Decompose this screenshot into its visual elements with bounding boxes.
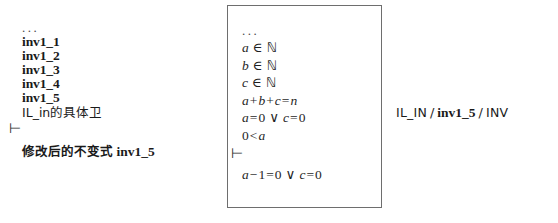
logical-or-icon: ∨ (265, 110, 283, 125)
equals-operator: = (289, 110, 299, 125)
box-hypothesis-a-in-nat: a∈ℕ (242, 39, 382, 57)
membership-icon: ∈ (249, 40, 267, 55)
proof-obligation-box: ... a∈ℕ b∈ℕ c∈ℕ a+b+c=n a=0∨c=0 0<a ⊢ a−… (227, 5, 382, 208)
var-a: a (242, 110, 249, 125)
left-goal-line: 修改后的不变式 inv1_5 (22, 143, 212, 161)
left-goal-prefix: 修改后的不变式 (22, 144, 113, 159)
left-annotation-note: IL_in的具体卫 (22, 105, 212, 120)
literal-zero: 0 (242, 128, 249, 143)
hypothesis-inv1-4: inv1_4 (22, 77, 212, 91)
rule-label-kind: INV (486, 105, 508, 120)
membership-icon: ∈ (249, 58, 267, 73)
literal-zero: 0 (299, 110, 306, 125)
var-c: c (275, 93, 281, 108)
left-sequent-panel: ... inv1_1 inv1_2 inv1_3 inv1_4 inv1_5 I… (22, 20, 212, 161)
equals-operator: = (281, 93, 291, 108)
box-hypothesis-c-in-nat: c∈ℕ (242, 74, 382, 92)
rule-label-source: IL_IN (396, 105, 427, 120)
var-a: a (242, 40, 249, 55)
box-hypothesis-disjunction: a=0∨c=0 (242, 109, 382, 127)
rule-label-separator: / (476, 105, 486, 120)
literal-zero: 0 (315, 167, 322, 182)
proof-box-content: ... a∈ℕ b∈ℕ c∈ℕ a+b+c=n a=0∨c=0 0<a ⊢ a−… (242, 22, 382, 184)
equals-operator: = (265, 167, 275, 182)
box-hypothesis-sum: a+b+c=n (242, 92, 382, 110)
hypothesis-inv1-2: inv1_2 (22, 49, 212, 63)
literal-zero: 0 (275, 167, 282, 182)
hypothesis-inv1-1: inv1_1 (22, 35, 212, 49)
plus-operator: + (265, 93, 275, 108)
rule-label-target: inv1_5 (437, 105, 475, 120)
minus-operator: − (249, 167, 259, 182)
turnstile-symbol-icon: ⊢ (231, 144, 382, 162)
membership-icon: ∈ (248, 75, 266, 90)
nat-set-symbol: ℕ (266, 75, 276, 90)
left-goal-name: inv1_5 (116, 144, 154, 159)
rule-label: IL_IN/inv1_5/INV (396, 105, 508, 121)
var-a: a (242, 167, 249, 182)
box-hypothesis-b-in-nat: b∈ℕ (242, 57, 382, 75)
logical-or-icon: ∨ (282, 167, 300, 182)
left-ellipsis: ... (22, 20, 212, 35)
box-goal-line: a−1=0∨c=0 (242, 166, 382, 184)
hypothesis-inv1-5: inv1_5 (22, 91, 212, 105)
var-b: b (242, 58, 249, 73)
equals-operator: = (305, 167, 315, 182)
less-than-operator: < (249, 128, 259, 143)
nat-set-symbol: ℕ (267, 40, 277, 55)
var-a: a (258, 128, 265, 143)
turnstile-symbol-icon: ⊢ (9, 120, 212, 136)
rule-label-separator: / (427, 105, 437, 120)
hypothesis-inv1-3: inv1_3 (22, 63, 212, 77)
equals-operator: = (249, 110, 259, 125)
box-ellipsis: ... (242, 22, 382, 39)
plus-operator: + (249, 93, 259, 108)
var-n: n (290, 93, 297, 108)
var-a: a (242, 93, 249, 108)
nat-set-symbol: ℕ (267, 58, 277, 73)
box-hypothesis-positivity: 0<a (242, 127, 382, 145)
